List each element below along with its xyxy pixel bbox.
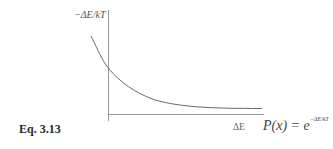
- y-axis-label: −ΔE/kT: [74, 9, 106, 20]
- formula-exponent: −ΔE/kT: [310, 116, 329, 122]
- formula-main: P(x) = e: [263, 118, 310, 133]
- equation-number: Eq. 3.13: [19, 122, 61, 137]
- formula: P(x) = e−ΔE/kT: [263, 118, 329, 134]
- exponential-decay-curve: [91, 36, 262, 109]
- figure: −ΔE/kT ΔE Eq. 3.13 P(x) = e−ΔE/kT: [0, 0, 333, 149]
- x-axis-label: ΔE: [233, 122, 245, 132]
